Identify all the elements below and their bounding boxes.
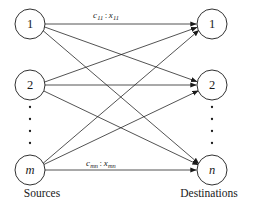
edge-s1-d2 (44, 27, 197, 82)
edge-label-flow-subscript: 11 (113, 14, 119, 21)
destination-ellipsis-dot (211, 118, 213, 120)
source-ellipsis-dot (29, 106, 31, 108)
edge-label-flow-subscript: mn (108, 162, 116, 169)
edge-group (42, 24, 199, 170)
edge-label-cost-subscript: 11 (97, 14, 103, 21)
destination-ellipsis-dot (211, 142, 213, 144)
source-ellipsis (29, 106, 31, 144)
diagram-canvas: 1 2 m 1 2 n (0, 0, 258, 215)
source-nodes: 1 2 m (15, 9, 45, 185)
source-ellipsis-dot (29, 118, 31, 120)
source-ellipsis-dot (29, 142, 31, 144)
destination-nodes: 1 2 n (197, 9, 227, 185)
source-node-m-label: m (25, 163, 34, 177)
edge-label-c11-x11: c11:x11 (93, 10, 119, 20)
destinations-caption: Destinations (180, 187, 238, 199)
destination-node-2-label: 2 (209, 78, 215, 92)
destination-node-n-label: n (209, 163, 215, 177)
destination-ellipsis (211, 106, 213, 144)
edge-s2-d1 (44, 27, 197, 82)
source-ellipsis-dot (29, 130, 31, 132)
destination-node-1-label: 1 (209, 17, 215, 31)
edge-label-cmn-xmn: cmn:xmn (86, 158, 116, 168)
transportation-network-diagram: 1 2 m 1 2 n (0, 0, 258, 215)
source-node-2-label: 2 (27, 78, 33, 92)
edge-label-cost-subscript: mn (90, 162, 98, 169)
source-node-1-label: 1 (27, 17, 33, 31)
destination-ellipsis-dot (211, 106, 213, 108)
destination-ellipsis-dot (211, 130, 213, 132)
sources-caption: Sources (24, 187, 61, 199)
